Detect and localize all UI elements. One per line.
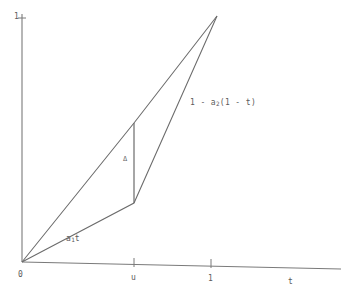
lower-curve-label: a1t bbox=[66, 235, 80, 243]
axes-group bbox=[18, 14, 341, 269]
y-tick-label-1: 1 bbox=[14, 13, 19, 21]
x-axis-label: t bbox=[288, 278, 293, 286]
upper-curve-label-pre: 1 - a bbox=[190, 98, 216, 107]
x-tick-label-u: u bbox=[131, 274, 136, 282]
lower-curve-label-tail: t bbox=[75, 234, 80, 243]
upper-curve-label: 1 - a2(1 - t) bbox=[190, 99, 256, 107]
x-tick-label-1: 1 bbox=[208, 275, 213, 283]
x-tick-label-0: 0 bbox=[18, 271, 23, 279]
figure-container: 1 0 u 1 t a1t 1 - a2(1 - t) Δ bbox=[0, 0, 347, 298]
upper-curve-label-post: (1 - t) bbox=[220, 98, 257, 107]
upper-envelope-line bbox=[22, 16, 217, 262]
x-axis bbox=[22, 262, 341, 269]
gap-label-delta: Δ bbox=[123, 156, 128, 163]
figure-canvas bbox=[0, 0, 347, 298]
